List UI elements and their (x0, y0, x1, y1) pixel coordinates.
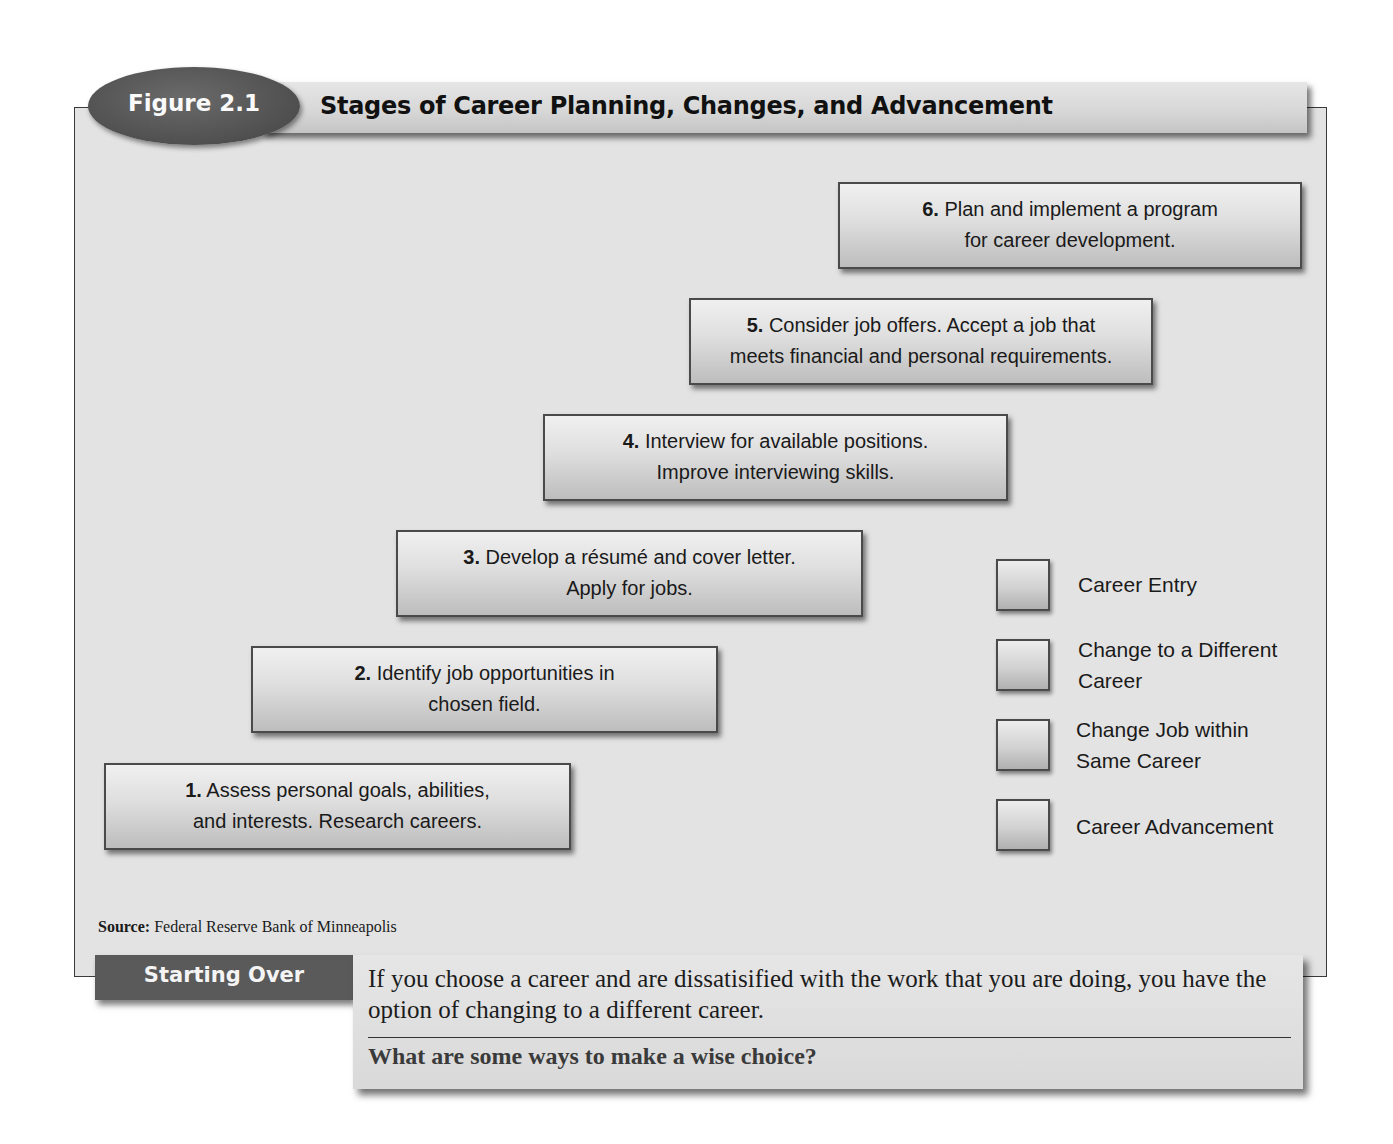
stage-4-number: 4. (623, 430, 640, 452)
stage-2-box: 2. Identify job opportunities in chosen … (251, 646, 718, 733)
caption-tab-label: Starting Over (95, 963, 353, 987)
caption-question: What are some ways to make a wise choice… (368, 1043, 817, 1070)
stage-1-box: 1. Assess personal goals, abilities, and… (104, 763, 571, 850)
stage-6-line-2: for career development. (840, 225, 1300, 256)
stage-2-number: 2. (354, 662, 371, 684)
source-text: Federal Reserve Bank of Minneapolis (154, 918, 397, 935)
stage-3-number: 3. (463, 546, 480, 568)
source-label: Source: (98, 918, 150, 935)
stage-2-text-1: Identify job opportunities in (377, 662, 615, 684)
legend-swatch (996, 639, 1050, 691)
figure-label: Figure 2.1 (88, 90, 300, 116)
legend-swatch (996, 719, 1050, 771)
stage-1-number: 1. (185, 779, 202, 801)
legend-swatch (996, 559, 1050, 611)
stage-2-line-1: 2. Identify job opportunities in (253, 658, 716, 689)
stage-4-box: 4. Interview for available positions. Im… (543, 414, 1008, 501)
stage-5-box: 5. Consider job offers. Accept a job tha… (689, 298, 1153, 385)
legend-label: Career Advancement (1076, 811, 1273, 842)
stage-4-line-1: 4. Interview for available positions. (545, 426, 1006, 457)
legend-label-line-2: Career (1078, 665, 1277, 696)
legend-label: Career Entry (1078, 569, 1197, 600)
stage-3-line-2: Apply for jobs. (398, 573, 861, 604)
legend-label: Change Job within Same Career (1076, 714, 1249, 776)
stage-3-text-1: Develop a résumé and cover letter. (486, 546, 796, 568)
stage-6-number: 6. (922, 198, 939, 220)
stage-6-box: 6. Plan and implement a program for care… (838, 182, 1302, 269)
legend-label: Change to a Different Career (1078, 634, 1277, 696)
legend-swatch (996, 799, 1050, 851)
stage-4-line-2: Improve interviewing skills. (545, 457, 1006, 488)
stage-2-line-2: chosen field. (253, 689, 716, 720)
stage-5-line-2: meets financial and personal requirement… (691, 341, 1151, 372)
figure-label-oval: Figure 2.1 (88, 67, 300, 145)
stage-5-line-1: 5. Consider job offers. Accept a job tha… (691, 310, 1151, 341)
caption-body: If you choose a career and are dissatisi… (368, 963, 1288, 1025)
stage-1-line-2: and interests. Research careers. (106, 806, 569, 837)
stage-3-line-1: 3. Develop a résumé and cover letter. (398, 542, 861, 573)
figure-title: Stages of Career Planning, Changes, and … (320, 92, 1053, 120)
stage-4-text-1: Interview for available positions. (645, 430, 928, 452)
stage-5-text-1: Consider job offers. Accept a job that (769, 314, 1096, 336)
legend-label-line-1: Change Job within (1076, 714, 1249, 745)
legend-label-line-1: Change to a Different (1078, 634, 1277, 665)
legend-label-line-2: Same Career (1076, 745, 1249, 776)
caption-tab: Starting Over (95, 955, 353, 1000)
stage-3-box: 3. Develop a résumé and cover letter. Ap… (396, 530, 863, 617)
stage-6-line-1: 6. Plan and implement a program (840, 194, 1300, 225)
caption-box: If you choose a career and are dissatisi… (353, 955, 1303, 1089)
figure-title-bar: Stages of Career Planning, Changes, and … (262, 82, 1307, 133)
caption-divider (368, 1037, 1291, 1038)
stage-5-number: 5. (747, 314, 764, 336)
stage-6-text-1: Plan and implement a program (944, 198, 1217, 220)
stage-1-text-1: Assess personal goals, abilities, (206, 779, 489, 801)
source-note: Source: Federal Reserve Bank of Minneapo… (98, 918, 397, 936)
stage-1-line-1: 1. Assess personal goals, abilities, (106, 775, 569, 806)
